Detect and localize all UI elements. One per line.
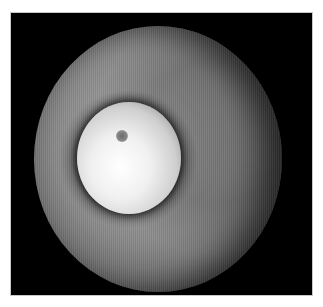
image-frame xyxy=(10,12,313,296)
disc-dark-spot xyxy=(116,130,128,142)
central-bright-disc xyxy=(77,102,181,214)
